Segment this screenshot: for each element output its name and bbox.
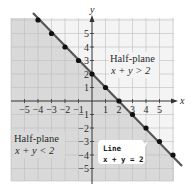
svg-text:Half-plane: Half-plane — [110, 53, 155, 64]
svg-text:Half-plane: Half-plane — [14, 133, 59, 144]
y-axis-label: y — [89, 4, 95, 15]
svg-text:4: 4 — [144, 104, 149, 115]
svg-text:4: 4 — [84, 42, 89, 53]
svg-text:−3: −3 — [46, 104, 57, 115]
x-axis-label: x — [179, 95, 185, 106]
svg-text:1: 1 — [84, 82, 89, 93]
svg-text:−2: −2 — [78, 123, 89, 134]
svg-text:−5: −5 — [19, 104, 30, 115]
svg-text:3: 3 — [84, 55, 89, 66]
svg-text:−2: −2 — [60, 104, 71, 115]
svg-text:Line: Line — [103, 144, 122, 153]
svg-text:−3: −3 — [78, 136, 89, 147]
svg-text:x + y < 2: x + y < 2 — [14, 145, 55, 156]
x-axis-arrow-icon — [171, 99, 178, 104]
svg-text:−1: −1 — [78, 109, 89, 120]
svg-text:x + y = 2: x + y = 2 — [103, 155, 144, 164]
half-plane-graph: y x −5 −4 −3 −2 −1 1 2 3 4 5 5 4 3 2 1 −… — [0, 0, 192, 196]
lower-half-plane-label: Half-plane x + y < 2 — [13, 132, 65, 158]
svg-text:1: 1 — [103, 104, 108, 115]
svg-text:−4: −4 — [78, 150, 89, 161]
svg-text:5: 5 — [84, 28, 89, 39]
svg-text:−5: −5 — [78, 163, 89, 174]
svg-text:2: 2 — [117, 104, 122, 115]
svg-text:x + y > 2: x + y > 2 — [110, 65, 151, 76]
svg-text:5: 5 — [157, 104, 162, 115]
upper-half-plane-label: Half-plane x + y > 2 — [109, 52, 159, 78]
svg-text:−4: −4 — [33, 104, 44, 115]
line-callout: Line x + y = 2 — [98, 140, 148, 164]
